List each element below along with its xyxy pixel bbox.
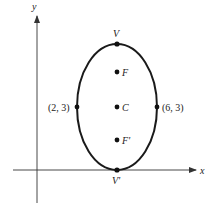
focus-lower-label: F' <box>121 135 131 146</box>
focus-lower-point <box>115 138 120 143</box>
x-axis-label: x <box>199 165 205 176</box>
focus-upper-label: F <box>121 67 129 78</box>
right-covertex-point <box>155 105 160 110</box>
y-axis-label: y <box>31 1 37 12</box>
left-covertex-point <box>75 105 80 110</box>
left-point-label: (2, 3) <box>48 102 70 114</box>
right-point-label: (6, 3) <box>162 102 184 114</box>
vertex-top-label: V <box>113 28 121 39</box>
center-point <box>115 105 120 110</box>
vertex-top-point <box>114 41 119 46</box>
vertex-bottom-label: V' <box>112 175 121 186</box>
vertex-bottom-point <box>114 167 119 172</box>
center-label: C <box>122 102 129 113</box>
ellipse-diagram: y x V F C F' V' (2, 3) (6, 3) <box>0 0 215 214</box>
focus-upper-point <box>115 70 120 75</box>
